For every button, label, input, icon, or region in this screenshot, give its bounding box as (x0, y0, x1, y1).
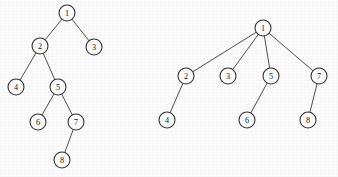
tree-node[interactable]: 3 (86, 39, 102, 55)
tree-node[interactable]: 4 (159, 112, 175, 128)
tree-node[interactable]: 5 (50, 79, 66, 95)
tree-node[interactable]: 2 (32, 38, 48, 54)
node-circle (311, 68, 327, 84)
node-circle (86, 39, 102, 55)
node-circle (178, 68, 194, 84)
tree-edge (42, 94, 54, 115)
tree-node[interactable]: 1 (59, 5, 75, 21)
tree-edge (72, 19, 89, 40)
node-circle (32, 38, 48, 54)
tree-edge (264, 36, 269, 68)
nodes-layer: 1234567812357468 (8, 5, 327, 168)
tree-node[interactable]: 2 (178, 68, 194, 84)
tree-node[interactable]: 3 (220, 68, 236, 84)
tree-node[interactable]: 4 (8, 79, 24, 95)
tree-diagrams-figure: 1234567812357468 (0, 0, 338, 177)
node-circle (54, 152, 70, 168)
node-circle (30, 114, 46, 130)
tree-edge (251, 83, 267, 113)
node-circle (50, 79, 66, 95)
tree-edge (65, 130, 73, 153)
tree-node[interactable]: 7 (68, 114, 84, 130)
node-circle (263, 68, 279, 84)
tree-node[interactable]: 8 (300, 112, 316, 128)
tree-edge (20, 53, 36, 80)
tree-edge (45, 19, 62, 40)
tree-node[interactable]: 1 (255, 20, 271, 36)
node-circle (239, 112, 255, 128)
node-circle (300, 112, 316, 128)
node-circle (8, 79, 24, 95)
tree-node[interactable]: 7 (311, 68, 327, 84)
tree-edge (170, 83, 183, 112)
figure-page: { "figure": { "background_color": "#fbfb… (0, 0, 338, 177)
node-circle (255, 20, 271, 36)
tree-node[interactable]: 6 (30, 114, 46, 130)
tree-node[interactable]: 8 (54, 152, 70, 168)
node-circle (59, 5, 75, 21)
tree-edge (193, 32, 256, 72)
node-circle (220, 68, 236, 84)
tree-edge (310, 84, 317, 112)
tree-edge (233, 34, 259, 69)
tree-edge (62, 94, 73, 115)
tree-edge (269, 33, 313, 71)
tree-node[interactable]: 6 (239, 112, 255, 128)
node-circle (159, 112, 175, 128)
tree-edge (43, 53, 55, 79)
node-circle (68, 114, 84, 130)
tree-node[interactable]: 5 (263, 68, 279, 84)
